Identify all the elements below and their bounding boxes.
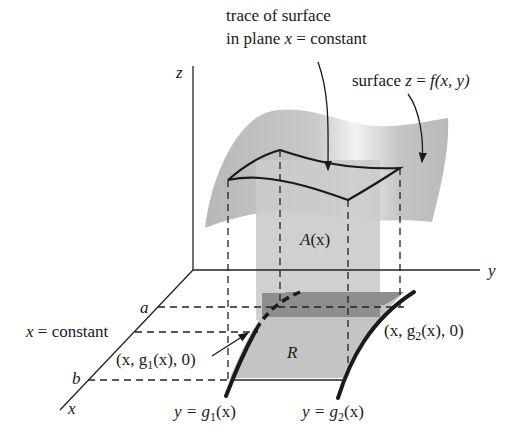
cross-section-label: A(x) [299,230,330,249]
trace-label-line2: in plane x = constant [226,29,367,48]
x-constant-label: x = constant [25,322,109,341]
b-label: b [72,369,81,388]
x-axis-label: x [67,399,76,418]
trace-label-line1: trace of surface [226,6,331,25]
g2-curve-label: y = g2(x) [300,402,364,424]
diagram-canvas: trace of surface in plane x = constant s… [0,0,526,446]
iterated-integral-diagram: trace of surface in plane x = constant s… [0,0,526,446]
g2-point-label: (x, g2(x), 0) [384,321,464,343]
surface-label: surface z = f(x, y) [352,71,470,90]
z-axis-label: z [175,63,183,82]
y-axis-label: y [486,261,496,280]
g1-point-label: (x, g1(x), 0) [116,350,196,372]
g1-curve-label: y = g1(x) [172,402,236,424]
region-r-label: R [286,343,298,362]
a-label: a [140,298,149,317]
